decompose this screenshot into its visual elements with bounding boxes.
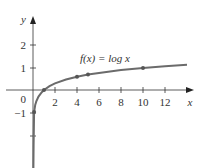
y-tick-label: 1 [21,62,27,74]
function-label: f(x) = log x [80,52,130,65]
x-axis-arrow-icon [186,87,194,93]
x-tick-label: 4 [74,96,80,108]
x-tick-label: 10 [138,96,150,108]
point-1 [42,88,46,92]
log-function-chart: 2 4 6 8 10 12 x 2 1 0 −1 y f(x) = log x [0,0,201,168]
x-tick-label: 6 [96,96,102,108]
x-axis-label: x [187,96,193,108]
point-4 [75,75,79,79]
y-axis-arrow-icon [30,16,36,24]
point-5 [86,73,90,77]
point-10 [141,66,145,70]
x-tick-label: 12 [160,96,171,108]
origin-label: 0 [21,93,27,105]
point-0.1 [32,110,36,114]
x-tick-label: 8 [118,96,124,108]
y-tick-label: −1 [14,107,26,119]
y-tick-label: 2 [21,39,27,51]
x-tick-label: 2 [52,96,58,108]
log-curve [33,65,187,168]
y-axis-label: y [20,13,26,25]
